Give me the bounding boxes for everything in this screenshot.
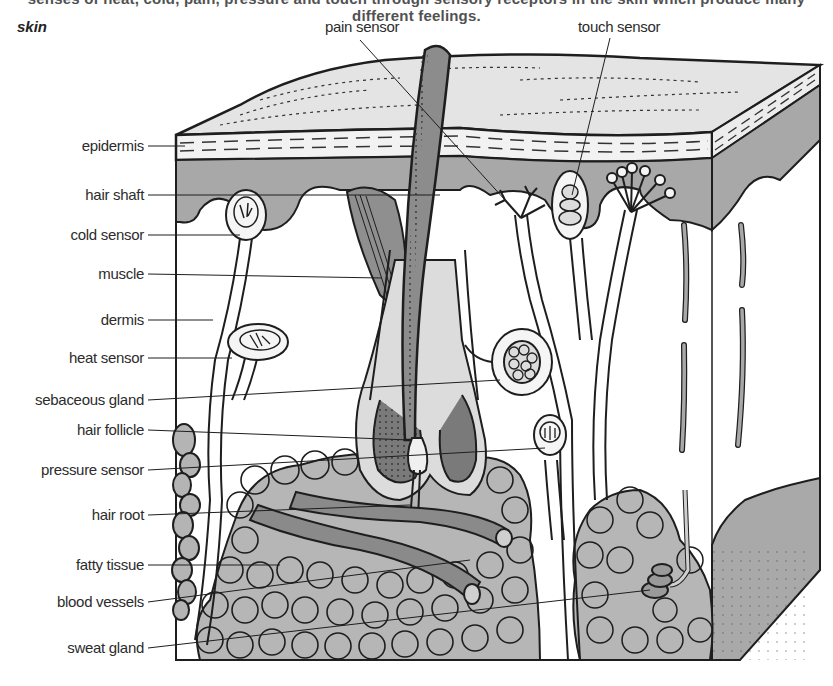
label-epidermis: epidermis: [0, 137, 144, 154]
skin-cross-section-diagram: [0, 0, 833, 686]
cold-sensor-shape: [226, 190, 266, 240]
label-sebaceous-gland: sebaceous gland: [0, 391, 144, 408]
label-heat-sensor: heat sensor: [0, 349, 144, 366]
label-hair-follicle: hair follicle: [0, 421, 144, 438]
label-sweat-gland: sweat gland: [0, 639, 144, 656]
sebaceous-gland-shape: [465, 329, 552, 395]
label-hair-shaft: hair shaft: [0, 186, 144, 203]
sweat-gland-fat-cluster: [573, 490, 712, 660]
label-muscle: muscle: [0, 265, 144, 282]
touch-sensor-shape: [552, 171, 588, 239]
label-blood-vessels: blood vessels: [0, 593, 144, 610]
label-fatty-tissue: fatty tissue: [0, 556, 144, 573]
label-hair-root: hair root: [0, 506, 144, 523]
label-dermis: dermis: [0, 311, 144, 328]
skin-surface: [176, 54, 820, 135]
label-pressure-sensor: pressure sensor: [0, 461, 144, 478]
pressure-sensor-shape: [534, 415, 566, 455]
hair-root-bulb: [408, 438, 427, 474]
label-touch-sensor: touch sensor: [578, 18, 660, 35]
heat-sensor-shape: [228, 324, 288, 360]
label-pain-sensor: pain sensor: [325, 18, 399, 35]
label-cold-sensor: cold sensor: [0, 226, 144, 243]
